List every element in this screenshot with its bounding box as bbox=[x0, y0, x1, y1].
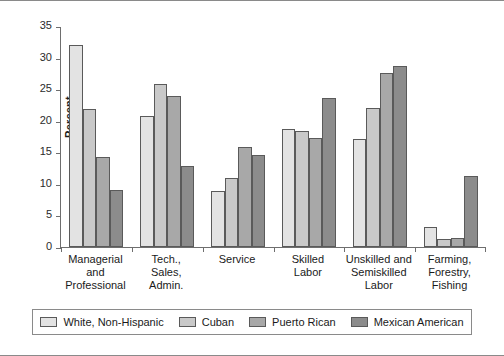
bar bbox=[424, 227, 438, 247]
bar bbox=[393, 66, 407, 247]
bar bbox=[167, 96, 181, 247]
bar bbox=[464, 176, 478, 247]
bar bbox=[110, 190, 124, 247]
bar bbox=[322, 98, 336, 247]
bar-chart-figure: Percent 05101520253035 Managerial and Pr… bbox=[0, 0, 504, 356]
legend-item[interactable]: White, Non-Hispanic bbox=[40, 316, 163, 328]
legend-swatch bbox=[40, 317, 57, 327]
legend-item[interactable]: Puerto Rican bbox=[249, 316, 336, 328]
bars-layer bbox=[61, 27, 485, 247]
legend-swatch bbox=[351, 317, 368, 327]
bar bbox=[353, 139, 367, 247]
bar bbox=[96, 157, 110, 247]
x-axis-label: Farming, Forestry, Fishing bbox=[406, 253, 493, 292]
x-axis-tick-mark bbox=[132, 247, 133, 252]
y-axis-tick-label: 25 bbox=[40, 82, 52, 94]
bar bbox=[211, 191, 225, 247]
x-axis-tick-mark bbox=[61, 247, 62, 252]
bar-group bbox=[132, 27, 203, 247]
legend-swatch bbox=[179, 317, 196, 327]
y-axis-tick-label: 10 bbox=[40, 177, 52, 189]
y-axis-tick-label: 20 bbox=[40, 114, 52, 126]
legend-label: Puerto Rican bbox=[272, 316, 336, 328]
bar bbox=[140, 116, 154, 247]
bar-group bbox=[274, 27, 345, 247]
bar-group bbox=[61, 27, 132, 247]
x-axis-tick-mark bbox=[485, 247, 486, 252]
y-axis-tick-label: 0 bbox=[46, 240, 52, 252]
bar bbox=[181, 166, 195, 247]
bar bbox=[252, 155, 266, 247]
plot-area: Percent 05101520253035 bbox=[60, 27, 485, 248]
bar bbox=[225, 178, 239, 247]
bar bbox=[437, 239, 451, 247]
legend-swatch bbox=[249, 317, 266, 327]
bar bbox=[366, 108, 380, 247]
bar bbox=[282, 129, 296, 247]
x-axis-tick-mark bbox=[415, 247, 416, 252]
y-axis-tick-label: 30 bbox=[40, 51, 52, 63]
bar bbox=[451, 238, 465, 247]
legend-label: Cuban bbox=[202, 316, 234, 328]
bar bbox=[380, 73, 394, 247]
chart-legend: White, Non-HispanicCubanPuerto RicanMexi… bbox=[32, 309, 472, 335]
x-axis-tick-mark bbox=[344, 247, 345, 252]
bar-group bbox=[203, 27, 274, 247]
y-axis-tick-label: 35 bbox=[40, 19, 52, 31]
legend-label: White, Non-Hispanic bbox=[63, 316, 163, 328]
bar-group bbox=[344, 27, 415, 247]
bar bbox=[83, 109, 97, 247]
bar bbox=[309, 138, 323, 247]
x-axis-labels: Managerial and ProfessionalTech., Sales,… bbox=[60, 253, 485, 299]
bar bbox=[154, 84, 168, 247]
legend-label: Mexican American bbox=[374, 316, 464, 328]
x-axis-tick-mark bbox=[274, 247, 275, 252]
bar bbox=[238, 147, 252, 247]
bar bbox=[295, 131, 309, 247]
legend-item[interactable]: Cuban bbox=[179, 316, 234, 328]
bar-group bbox=[415, 27, 486, 247]
bar bbox=[69, 45, 83, 247]
x-axis-tick-mark bbox=[203, 247, 204, 252]
y-axis-tick-label: 5 bbox=[46, 208, 52, 220]
y-axis-tick-label: 15 bbox=[40, 145, 52, 157]
legend-item[interactable]: Mexican American bbox=[351, 316, 464, 328]
